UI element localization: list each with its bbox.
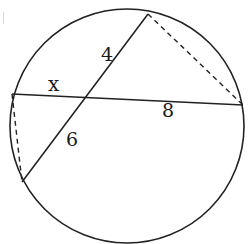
- chord-b: [12, 94, 243, 105]
- dashed-segment-right: [148, 14, 243, 105]
- label-6: 6: [66, 128, 78, 150]
- circle: [10, 9, 244, 243]
- label-8: 8: [162, 99, 174, 121]
- dashed-segment-left: [12, 94, 22, 182]
- intersecting-chords-diagram: x 4 8 6: [0, 0, 252, 244]
- label-4: 4: [101, 43, 113, 65]
- label-x: x: [48, 72, 60, 96]
